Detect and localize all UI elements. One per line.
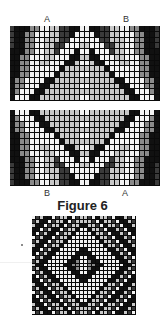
- label-top-a: A: [44, 15, 50, 24]
- pattern-cell: [155, 180, 160, 186]
- pattern-bottom-diamond: [32, 216, 136, 315]
- pattern-top-chevron: [10, 26, 160, 101]
- label-top-b: B: [123, 15, 129, 24]
- pattern-middle-chevron: [10, 110, 160, 186]
- divider-line: [0, 262, 32, 263]
- pattern-cell: [155, 95, 160, 101]
- label-bottom-a: A: [122, 189, 128, 198]
- label-bottom-b: B: [44, 189, 50, 198]
- stray-dot: [21, 244, 23, 246]
- figure-caption: Figure 6: [0, 199, 165, 212]
- pattern-cell: [132, 311, 136, 315]
